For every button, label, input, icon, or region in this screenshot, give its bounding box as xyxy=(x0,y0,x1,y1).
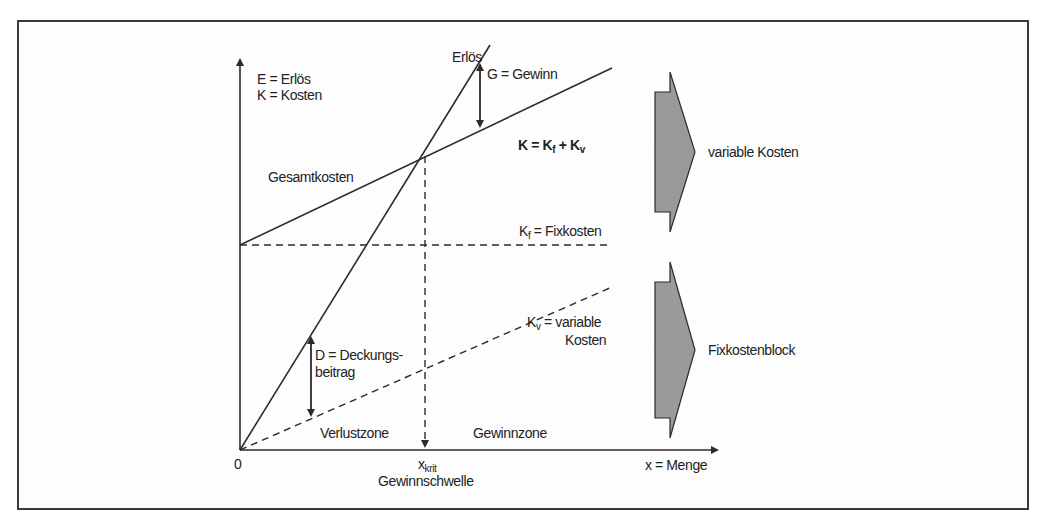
profit-zone-label: Gewinnzone xyxy=(473,425,547,441)
variable-cost-label-line2: Kosten xyxy=(565,332,606,348)
x-axis-label: x = Menge xyxy=(645,457,708,473)
profit-label: G = Gewinn xyxy=(487,66,557,82)
break-even-diagram: E = Erlös K = Kosten Erlös G = Gewinn K … xyxy=(0,0,1048,530)
fixed-cost-block-arrow xyxy=(655,262,695,438)
revenue-line-label: Erlös xyxy=(452,49,482,65)
contribution-label-line2: beitrag xyxy=(315,364,355,380)
variable-cost-label: Kv = variable xyxy=(527,314,602,332)
variable-cost-line xyxy=(240,287,612,450)
loss-zone-label: Verlustzone xyxy=(320,425,389,441)
y-axis-label-revenue: E = Erlös xyxy=(257,71,311,87)
y-axis-label-cost: K = Kosten xyxy=(257,87,322,103)
origin-label: 0 xyxy=(234,456,242,472)
fixed-cost-label: Kf = Fixkosten xyxy=(519,223,601,241)
break-even-label: Gewinnschwelle xyxy=(378,473,474,489)
contribution-label-line1: D = Deckungs- xyxy=(315,347,404,363)
total-cost-label: Gesamtkosten xyxy=(268,169,353,185)
revenue-line xyxy=(240,45,490,450)
total-cost-formula: K = Kf + Kv xyxy=(518,137,586,155)
variable-cost-block-arrow xyxy=(655,72,695,232)
fixed-cost-block-label: Fixkostenblock xyxy=(708,342,796,358)
variable-cost-block-label: variable Kosten xyxy=(708,144,799,160)
x-crit-label: xkrit xyxy=(418,456,437,474)
